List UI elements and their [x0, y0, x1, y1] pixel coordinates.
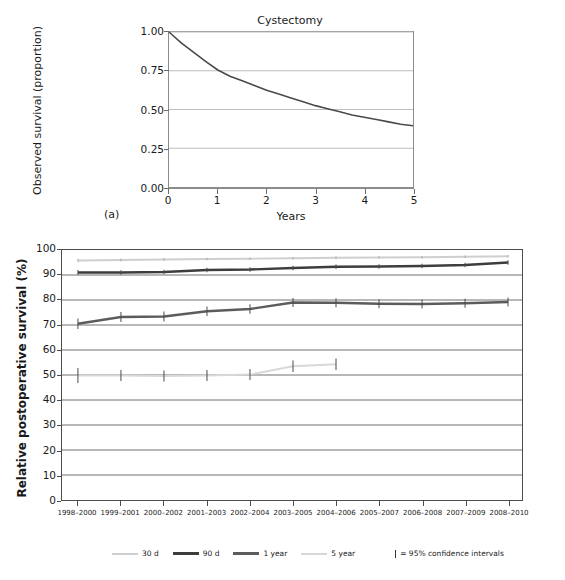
legend-confidence-note: = 95% confidence intervals — [395, 549, 504, 558]
panel-a-title: Cystectomy — [140, 14, 440, 27]
panel-a-x-axis-label: Years — [241, 210, 341, 223]
panel-b-x-tick-label: 2008–2010 — [483, 509, 535, 517]
panel-a-y-axis-label: Observed survival (proportion) — [31, 26, 44, 196]
legend-line-swatch — [112, 553, 138, 555]
panel-b-y-tick-mark — [57, 501, 61, 502]
panel-a-y-tick-label: 0.00 — [120, 182, 164, 194]
panel-a-cystectomy-survival-chart: Cystectomy Observed survival (proportion… — [0, 0, 565, 228]
panel-b-y-tick-mark — [57, 350, 61, 351]
panel-a-x-tick-label: 4 — [355, 194, 375, 206]
panel-a-x-axis-line — [168, 188, 414, 189]
panel-b-x-tick-mark — [509, 501, 510, 506]
panel-a-y-tick-mark — [164, 149, 169, 150]
legend-line-swatch — [233, 552, 259, 555]
panel-a-y-tick-mark — [164, 70, 169, 71]
panel-b-y-tick-label: 40 — [18, 394, 56, 404]
panel-b-y-tick-mark — [57, 325, 61, 326]
panel-b-series-group — [62, 250, 522, 500]
legend-item-90-d[interactable]: 90 d — [173, 549, 220, 558]
panel-b-x-tick-mark — [293, 501, 294, 506]
panel-b-x-tick-mark — [163, 501, 164, 506]
panel-b-y-tick-mark — [57, 299, 61, 300]
panel-a-x-tick-label: 5 — [404, 194, 424, 206]
legend-items: 30 d90 d1 year5 year — [112, 549, 369, 558]
panel-a-series-observed-survival — [169, 32, 413, 126]
panel-b-y-tick-mark — [57, 274, 61, 275]
panel-b-y-tick-label: 10 — [18, 470, 56, 480]
panel-b-y-tick-label: 100 — [18, 243, 56, 253]
panel-b-y-tick-label: 80 — [18, 293, 56, 303]
chart-legend: 30 d90 d1 year5 year = 95% confidence in… — [112, 549, 504, 558]
legend-label: 90 d — [203, 549, 220, 558]
panel-a-x-tick-label: 1 — [207, 194, 227, 206]
panel-b-x-tick-mark — [77, 501, 78, 506]
panel-b-confidence-intervals — [78, 255, 508, 383]
panel-b-relative-survival-chart: Relative postoperative survival (%) 1009… — [0, 228, 565, 580]
panel-b-y-tick-label: 20 — [18, 445, 56, 455]
legend-item-30-d[interactable]: 30 d — [112, 549, 159, 558]
legend-ci-label: = 95% confidence intervals — [400, 549, 504, 558]
legend-label: 5 year — [331, 549, 355, 558]
panel-a-y-tick-label: 0.75 — [120, 64, 164, 76]
panel-a-plot-area — [168, 31, 414, 188]
panel-a-y-tick-label: 0.50 — [120, 104, 164, 116]
confidence-interval-icon — [395, 550, 396, 558]
panel-b-x-tick-mark — [423, 501, 424, 506]
panel-b-y-tick-mark — [57, 375, 61, 376]
panel-b-y-tick-mark — [57, 451, 61, 452]
panel-a-gridlines — [169, 32, 413, 148]
panel-b-y-tick-mark — [57, 400, 61, 401]
panel-b-x-tick-mark — [120, 501, 121, 506]
panel-a-x-tick-label: 3 — [306, 194, 326, 206]
panel-b-x-tick-mark — [207, 501, 208, 506]
legend-label: 1 year — [263, 549, 287, 558]
panel-a-y-tick-mark — [164, 31, 169, 32]
panel-b-x-tick-mark — [250, 501, 251, 506]
legend-item-1-year[interactable]: 1 year — [233, 549, 287, 558]
panel-a-survival-curve — [169, 32, 413, 187]
panel-b-y-tick-label: 60 — [18, 344, 56, 354]
panel-b-plot-area — [61, 249, 523, 501]
panel-a-y-tick-label: 0.25 — [120, 143, 164, 155]
panel-b-y-tick-label: 30 — [18, 419, 56, 429]
panel-b-x-tick-mark — [336, 501, 337, 506]
panel-a-y-tick-mark — [164, 110, 169, 111]
panel-b-x-tick-mark — [379, 501, 380, 506]
panel-b-x-tick-mark — [466, 501, 467, 506]
panel-b-y-tick-mark — [57, 476, 61, 477]
legend-line-swatch — [173, 552, 199, 555]
panel-b-lines — [78, 256, 508, 376]
panel-b-y-tick-mark — [57, 425, 61, 426]
legend-item-5-year[interactable]: 5 year — [301, 549, 355, 558]
panel-b-y-tick-label: 0 — [18, 495, 56, 505]
panel-b-y-tick-label: 50 — [18, 369, 56, 379]
legend-line-swatch — [301, 553, 327, 555]
panel-a-y-tick-label: 1.00 — [120, 25, 164, 37]
figure-container: Cystectomy Observed survival (proportion… — [0, 0, 565, 580]
panel-a-letter: (a) — [104, 208, 119, 221]
panel-a-x-tick-label: 2 — [256, 194, 276, 206]
panel-b-y-tick-mark — [57, 249, 61, 250]
legend-label: 30 d — [142, 549, 159, 558]
panel-b-y-tick-label: 90 — [18, 268, 56, 278]
panel-b-y-tick-label: 70 — [18, 319, 56, 329]
panel-a-x-tick-label: 0 — [158, 194, 178, 206]
